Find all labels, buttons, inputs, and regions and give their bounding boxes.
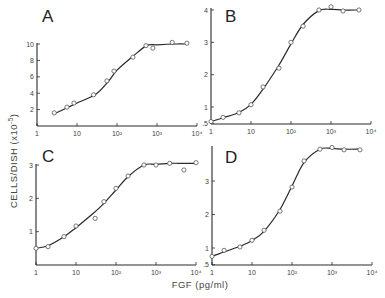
data-point [209,119,213,123]
x-tick-label: 10³ [327,269,338,276]
data-point [237,111,241,115]
data-point [301,24,305,28]
data-point [238,245,242,249]
data-point [330,145,334,149]
data-point [105,79,109,83]
data-point [52,111,56,115]
y-tick-label: 3 [204,39,208,46]
data-point [74,224,78,228]
figure-canvas: 11010²10³10⁴246810A 11010²10³10⁴.51234B … [0,0,385,298]
y-tick-label: 4 [30,90,34,97]
data-point [261,85,265,89]
x-tick-label: 10² [286,128,297,135]
data-point [342,148,346,152]
data-point [144,44,148,48]
y-tick-label: 2 [204,71,208,78]
x-tick-label: 10⁴ [367,269,378,276]
data-point [357,8,361,12]
data-point [168,161,172,165]
y-tick-label: 3 [205,178,209,185]
data-point [290,185,294,189]
y-tick-label: 8 [30,57,34,64]
data-point [151,46,155,50]
panel-letter: A [42,7,54,26]
y-tick-label: 1 [205,245,209,252]
data-point [210,254,214,258]
y-axis-title: CELLS/DISH (x10-5) [7,113,19,208]
x-tick-label: 1 [209,128,213,135]
data-point [182,168,186,172]
data-point [112,69,116,73]
x-tick-label: 10² [287,269,298,276]
x-tick-label: 10 [73,130,81,137]
x-tick-label: 10⁴ [366,128,377,135]
x-tick-label: 10⁴ [191,269,202,276]
x-tick-label: 10³ [152,130,163,137]
x-tick-label: 10 [247,128,255,135]
y-tick-label: 1 [29,228,33,235]
data-point [317,8,321,12]
x-tick-label: 1 [35,130,39,137]
data-point [221,115,225,119]
panel-d: 11010²10³10⁴.5123D [203,145,377,276]
data-point [142,163,146,167]
data-point [358,148,362,152]
data-point [329,5,333,9]
data-point [341,9,345,13]
data-point [170,40,174,44]
data-point [194,161,198,165]
data-point [72,101,76,105]
x-tick-label: 10 [248,269,256,276]
x-tick-label: 10² [112,130,123,137]
y-tick-label: 2 [205,211,209,218]
data-point [34,246,38,250]
data-point [222,248,226,252]
y-tick-label: 6 [30,73,34,80]
data-point [302,159,306,163]
fit-curve [36,163,196,248]
data-point [131,55,135,59]
data-point [126,174,130,178]
y-tick-label: .5 [202,120,208,127]
data-point [154,163,158,167]
data-point [289,40,293,44]
data-point [102,200,106,204]
data-point [277,66,281,70]
x-tick-label: 10⁴ [192,130,203,137]
data-point [262,228,266,232]
x-axis-title: FGF (pg/ml) [172,279,229,290]
data-point [318,147,322,151]
x-tick-label: 10³ [151,269,162,276]
data-point [62,235,66,239]
panel-c: 11010²10³10⁴123C [29,147,201,276]
data-point [46,245,50,249]
y-tick-label: 2 [29,195,33,202]
y-tick-label: .5 [203,261,209,268]
y-tick-label: 10 [26,41,34,48]
y-tick-label: 4 [204,7,208,14]
data-point [250,238,254,242]
x-tick-label: 10³ [326,128,337,135]
data-point [185,41,189,45]
x-tick-label: 10² [111,269,122,276]
y-tick-label: 2 [30,106,34,113]
x-tick-label: 10 [72,269,80,276]
data-point [93,216,97,220]
panel-letter: D [225,148,237,167]
panel-b: 11010²10³10⁴.51234B [202,5,376,135]
x-tick-label: 1 [210,269,214,276]
y-tick-label: 1 [204,104,208,111]
data-point [91,93,95,97]
x-tick-label: 1 [34,269,38,276]
data-point [278,209,282,213]
data-point [65,105,69,109]
panel-letter: B [225,7,236,26]
panel-a: 11010²10³10⁴246810A [26,7,202,137]
data-point [114,186,118,190]
y-tick-label: 3 [29,162,33,169]
data-point [249,103,253,107]
panel-letter: C [42,147,54,166]
